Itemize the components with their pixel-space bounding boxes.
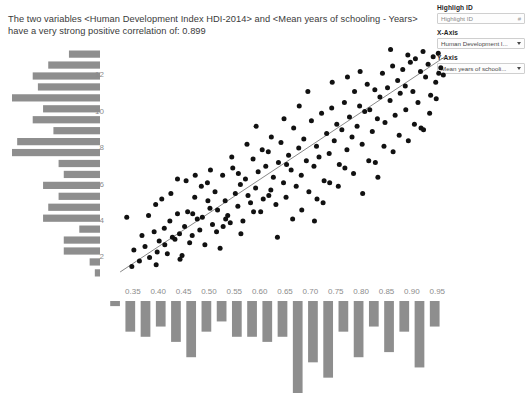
y-histogram-bar — [33, 116, 100, 123]
x-tick-label: 0.45 — [176, 287, 192, 296]
scatter-point — [391, 149, 396, 154]
scatter-point — [185, 209, 190, 214]
scatter-point — [342, 166, 347, 171]
y-histogram-bar — [43, 182, 100, 189]
scatter-point — [441, 73, 446, 78]
scatter-point — [309, 118, 314, 123]
x-histogram-bar — [369, 301, 379, 327]
scatter-point — [377, 94, 382, 99]
scatter-point — [271, 175, 276, 180]
x-tick-label: 0.60 — [252, 287, 268, 296]
y-tick-label: 8 — [100, 143, 105, 152]
chart-canvas: 24681012 0.350.400.450.500.550.600.650.7… — [0, 0, 528, 397]
scatter-point — [400, 67, 405, 72]
x-histogram-bar — [323, 301, 333, 378]
scatter-point — [182, 224, 187, 229]
x-histogram-bar — [125, 301, 135, 332]
scatter-point — [218, 246, 223, 251]
x-tick-label: 0.55 — [227, 287, 243, 296]
scatter-point — [190, 233, 195, 238]
scatter-point — [336, 184, 341, 189]
scatter-point — [266, 149, 271, 154]
scatter-point — [367, 107, 372, 112]
scatter-point — [251, 156, 256, 161]
x-histogram-bar — [110, 301, 120, 306]
x-tick-label: 0.90 — [404, 287, 420, 296]
scatter-point — [266, 193, 271, 198]
scatter-point — [350, 135, 355, 140]
scatter-point — [253, 186, 258, 191]
x-histogram-bar — [217, 301, 227, 321]
y-histogram-bar — [69, 51, 100, 58]
scatter-point — [200, 215, 205, 220]
y-histogram-bar — [12, 94, 100, 101]
scatter-point — [408, 60, 413, 65]
scatter-point — [347, 115, 352, 120]
scatter-point — [146, 213, 151, 218]
scatter-point — [327, 180, 332, 185]
scatter-point — [207, 206, 212, 211]
scatter-point — [205, 198, 210, 203]
x-histogram-bar — [384, 301, 394, 352]
scatter-point — [342, 100, 347, 105]
scatter-point — [154, 262, 159, 267]
y-histogram-bar — [95, 269, 100, 276]
scatter-point — [168, 191, 173, 196]
scatter-point — [390, 63, 395, 68]
scatter-point — [282, 116, 287, 121]
scatter-point — [362, 109, 367, 114]
scatter-point — [195, 217, 200, 222]
scatter-point — [157, 238, 162, 243]
scatter-point — [214, 229, 219, 234]
scatter-point — [360, 191, 365, 196]
scatter-point — [190, 211, 195, 216]
scatter-point — [155, 249, 160, 254]
scatter-point — [251, 209, 256, 214]
scatter-point — [317, 155, 322, 160]
scatter-point — [330, 80, 335, 85]
x-histogram-bar — [156, 301, 166, 327]
x-histogram-bar — [247, 301, 257, 337]
scatter-point — [421, 127, 426, 132]
scatter-point — [291, 125, 296, 130]
scatter-point — [175, 211, 180, 216]
scatter-point — [152, 229, 157, 234]
x-histogram-bar — [339, 301, 349, 332]
scatter-point — [436, 71, 441, 76]
scatter-point — [276, 160, 281, 165]
scatter-point — [299, 173, 304, 178]
x-tick-label: 0.85 — [379, 287, 395, 296]
scatter-point — [228, 220, 233, 225]
scatter-point — [177, 231, 182, 236]
scatter-point — [311, 164, 316, 169]
scatter-point — [397, 133, 402, 138]
scatter-point — [273, 202, 278, 207]
y-axis-histogram — [12, 51, 100, 277]
x-tick-label: 0.95 — [429, 287, 445, 296]
scatter-point — [256, 169, 261, 174]
scatter-point — [208, 167, 213, 172]
x-axis-histogram — [110, 301, 439, 393]
scatter-point — [305, 89, 310, 94]
scatter-point — [415, 100, 420, 105]
x-histogram-bar — [186, 301, 196, 357]
y-tick-label: 6 — [100, 180, 105, 189]
y-histogram-bar — [90, 258, 100, 265]
x-histogram-bar — [293, 301, 303, 393]
x-histogram-bar — [262, 301, 272, 342]
x-tick-label: 0.65 — [277, 287, 293, 296]
y-histogram-bar — [48, 204, 100, 211]
scatter-point — [398, 91, 403, 96]
scatter-point — [388, 98, 393, 103]
x-histogram-bar — [399, 301, 409, 332]
scatter-point — [434, 96, 439, 101]
y-histogram-bar — [64, 171, 100, 178]
scatter-point — [385, 85, 390, 90]
scatter-point — [289, 167, 294, 172]
scatter-point — [344, 147, 349, 152]
scatter-point — [143, 244, 148, 249]
x-tick-label: 0.70 — [303, 287, 319, 296]
scatter-point — [230, 166, 235, 171]
x-histogram-bar — [232, 301, 242, 337]
x-histogram-bar — [278, 301, 288, 337]
